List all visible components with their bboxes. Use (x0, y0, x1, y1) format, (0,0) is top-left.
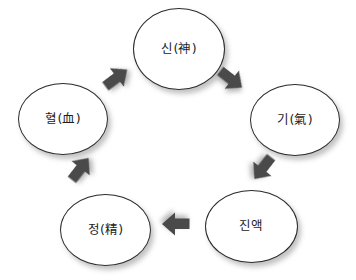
node-shin: 신(神) (133, 8, 225, 90)
node-shin-label: 신(神) (161, 43, 197, 56)
node-jinaek-label: 진액 (239, 220, 263, 233)
arrow-hyeol-to-shin-icon (96, 59, 136, 98)
arrow-gi-to-jinaek-icon (244, 148, 283, 188)
node-jeong: 정(精) (60, 194, 151, 266)
node-jeong-label: 정(精) (88, 224, 124, 237)
node-hyeol-label: 혈(血) (45, 113, 81, 126)
cycle-diagram: 신(神) 기(氣) 진액 정(精) 혈(血) (0, 0, 356, 280)
node-jinaek: 진액 (205, 190, 298, 263)
node-gi: 기(氣) (250, 84, 340, 156)
arrow-jinaek-to-jeong-icon (161, 211, 191, 237)
node-gi-label: 기(氣) (277, 114, 313, 127)
arrow-jeong-to-hyeol-icon (61, 149, 100, 189)
node-hyeol: 혈(血) (18, 83, 108, 155)
